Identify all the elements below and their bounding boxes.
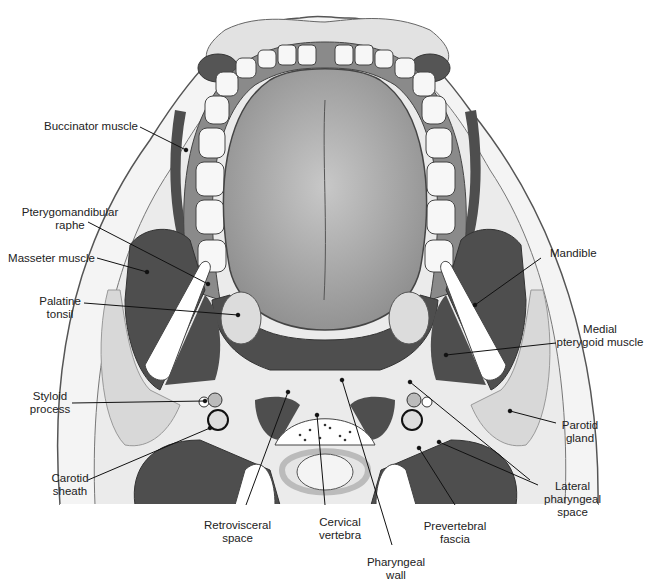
label-pterygomandibular-raphe: Pterygomandibular raphe	[20, 206, 120, 232]
jugular-left	[208, 393, 222, 407]
label-retrovisceral-space: Retrovisceral space	[200, 519, 275, 545]
anatomy-diagram: Buccinator muscle Pterygomandibular raph…	[0, 0, 651, 583]
label-line: Pterygomandibular	[20, 206, 120, 219]
label-line: wall	[366, 569, 426, 582]
label-carotid-sheath: Carotid sheath	[45, 472, 95, 498]
label-medial-pterygoid-muscle: Medial pterygoid muscle	[555, 323, 645, 349]
jugular-right	[407, 393, 421, 407]
label-pharyngeal-wall: Pharyngeal wall	[366, 556, 426, 582]
label-line: raphe	[20, 219, 120, 232]
label-line: pterygoid muscle	[555, 336, 645, 349]
label-styloid-process: Styloid process	[25, 390, 75, 416]
label-cervical-vertebra: Cervical vertebra	[310, 516, 370, 542]
label-masseter-muscle: Masseter muscle	[5, 252, 95, 265]
label-line: Carotid	[45, 472, 95, 485]
label-line: space	[540, 506, 605, 519]
label-line: sheath	[45, 485, 95, 498]
label-line: Pharyngeal	[366, 556, 426, 569]
label-line: Cervical	[310, 516, 370, 529]
label-prevertebral-fascia: Prevertebral fascia	[420, 520, 490, 546]
palatine-tonsil-right	[389, 292, 429, 344]
label-line: Prevertebral	[420, 520, 490, 533]
spinal-cord	[297, 454, 353, 490]
label-line: gland	[555, 432, 605, 445]
label-line: Palatine	[35, 295, 85, 308]
label-line: tonsil	[35, 308, 85, 321]
label-line: vertebra	[310, 529, 370, 542]
label-line: Parotid	[555, 419, 605, 432]
label-line: fascia	[420, 533, 490, 546]
palatine-tonsil-left	[221, 292, 261, 344]
label-line: Retrovisceral	[200, 519, 275, 532]
label-palatine-tonsil: Palatine tonsil	[35, 295, 85, 321]
carotid-right	[402, 410, 422, 430]
label-line: process	[25, 403, 75, 416]
label-buccinator-muscle: Buccinator muscle	[20, 120, 138, 133]
label-mandible: Mandible	[550, 247, 597, 260]
label-line: Lateral	[540, 480, 605, 493]
label-line: Styloid	[25, 390, 75, 403]
label-parotid-gland: Parotid gland	[555, 419, 605, 445]
label-line: Medial	[555, 323, 645, 336]
label-line: space	[200, 532, 275, 545]
label-line: pharyngeal	[540, 493, 605, 506]
label-lateral-pharyngeal-space: Lateral pharyngeal space	[540, 480, 605, 519]
